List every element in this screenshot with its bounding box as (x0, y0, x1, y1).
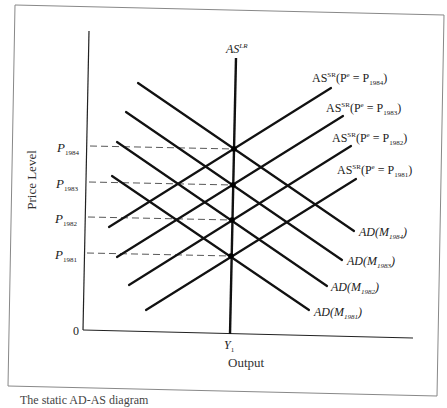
ad-label-1984: AD(M1984) (359, 226, 407, 241)
price-dashed-line-1 (89, 182, 233, 185)
price-dashed-line-0 (90, 146, 234, 149)
price-tick-1983: P1983 (56, 177, 78, 193)
price-tick-1982: P1982 (55, 212, 77, 228)
as-lr-label: ASLR (226, 43, 248, 55)
price-dashed-line-3 (87, 253, 231, 256)
ad-label-1981: AD(M1981) (314, 306, 362, 321)
figure-caption: The static AD-AS diagram (20, 393, 148, 408)
price-dashed-line-2 (88, 217, 232, 220)
as-lr-line (230, 58, 236, 334)
as-sr-label-1983: ASSR(Pe = P1983) (326, 102, 401, 117)
ad-line-2 (117, 142, 327, 286)
price-tick-1984: P1984 (57, 141, 79, 157)
y1-tick-label: Y1 (224, 339, 234, 354)
ad-label-1983: AD(M1983) (347, 255, 395, 270)
ad-line-3 (112, 176, 309, 310)
x-axis (83, 330, 413, 338)
as-sr-line-0 (109, 88, 331, 227)
y-axis-title: Price Level (24, 150, 40, 210)
y-axis (83, 31, 89, 330)
ad-label-1982: AD(M1982) (331, 281, 379, 296)
equilibrium-point-3 (228, 253, 234, 259)
equilibrium-point-1 (230, 182, 236, 188)
ad-line-0 (138, 83, 354, 231)
as-sr-label-1984: ASSR(Pe = P1984) (312, 72, 387, 87)
equilibrium-point-0 (231, 146, 237, 152)
equilibrium-point-2 (229, 217, 235, 223)
as-sr-label-1981: ASSR(Pe = P1981) (337, 164, 412, 179)
x-axis-title: Output (228, 355, 264, 371)
price-tick-1981: P1981 (55, 248, 77, 264)
as-sr-label-1982: ASSR(Pe = P1982) (332, 132, 407, 147)
origin-label: 0 (73, 325, 79, 337)
as-sr-line-1 (117, 116, 343, 257)
